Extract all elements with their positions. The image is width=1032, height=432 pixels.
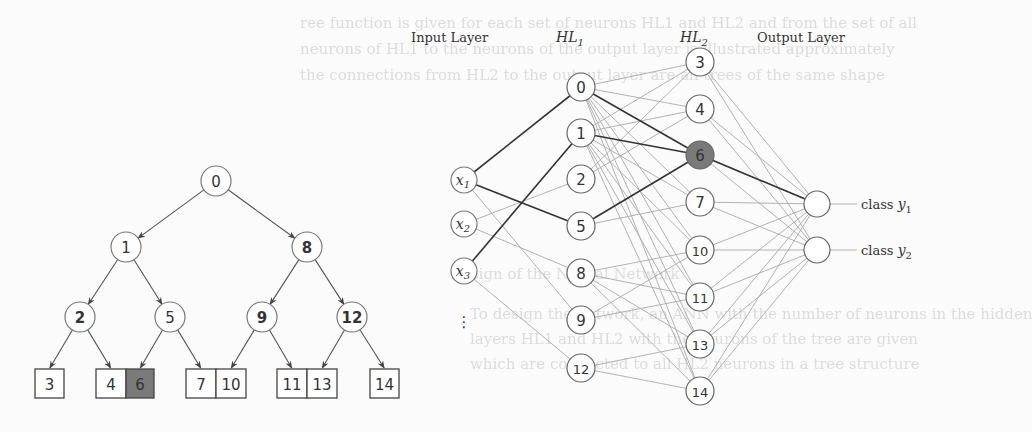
svg-text:14: 14: [375, 376, 394, 394]
svg-text:6: 6: [135, 376, 145, 394]
svg-text:0: 0: [576, 79, 586, 97]
connection: [581, 250, 700, 273]
svg-text:5: 5: [165, 309, 175, 327]
svg-text:8: 8: [302, 239, 312, 257]
tree-edge: [228, 190, 295, 238]
hl2-node-3: 3: [686, 48, 714, 76]
bold-connection: [700, 155, 817, 204]
svg-text:12: 12: [573, 362, 590, 377]
svg-text:8: 8: [576, 265, 586, 283]
tree-leaf-10: 10: [216, 369, 246, 398]
connection: [700, 204, 817, 297]
connection: [581, 368, 700, 391]
tree-edge: [88, 330, 111, 368]
svg-text:13: 13: [312, 376, 331, 394]
tree-node-1: 1: [111, 232, 141, 262]
svg-text:12: 12: [342, 309, 363, 327]
output-layer-label: Output Layer: [757, 30, 846, 45]
output-node-y2: class y2: [804, 237, 912, 263]
tree-edge: [138, 190, 204, 238]
hl1-node-12: 12: [567, 354, 595, 382]
tree-edge: [315, 260, 344, 305]
hl1-node-1: 1: [567, 119, 595, 147]
connection: [700, 62, 817, 204]
input-node-x2: x2: [451, 211, 477, 237]
hl1-label: HL1: [555, 29, 584, 48]
tree-leaf-11: 11: [277, 369, 307, 398]
tree-edge: [322, 330, 344, 368]
connection: [700, 250, 817, 391]
hl2-label: HL2: [679, 29, 708, 48]
svg-text:14: 14: [692, 385, 709, 400]
connection: [581, 297, 700, 320]
svg-text:4: 4: [695, 101, 705, 119]
hl2-node-13: 13: [686, 330, 714, 358]
svg-text:9: 9: [257, 309, 267, 327]
hl2-node-6: 6: [686, 141, 714, 169]
hl1-node-2: 2: [567, 165, 595, 193]
svg-text:1: 1: [121, 239, 131, 257]
tree-edge: [140, 330, 162, 368]
tree-leaf-14: 14: [370, 369, 399, 398]
tree-node-2: 2: [65, 302, 95, 332]
tree-edge: [88, 260, 118, 305]
connection: [464, 224, 581, 273]
connection: [700, 204, 817, 391]
connection: [581, 133, 700, 391]
svg-text:2: 2: [75, 309, 85, 327]
tree-node-5: 5: [155, 302, 185, 332]
svg-text:2: 2: [576, 171, 586, 189]
hl1-node-9: 9: [567, 306, 595, 334]
connection: [581, 62, 700, 87]
tree-leaf-13: 13: [307, 369, 337, 398]
input-layer-label: Input Layer: [411, 30, 489, 45]
connection: [700, 109, 817, 204]
tree-leaf-6: 6: [126, 369, 154, 398]
neural-network-diagram: x1x2x3⋮01258912346710111314class y1class…: [411, 29, 912, 405]
svg-text:10: 10: [692, 244, 709, 259]
svg-text:10: 10: [221, 376, 240, 394]
svg-text:6: 6: [695, 147, 705, 165]
input-node-x1: x1: [451, 167, 477, 193]
hl2-node-4: 4: [686, 95, 714, 123]
tree-leaf-4: 4: [96, 369, 126, 398]
svg-text:1: 1: [576, 125, 586, 143]
svg-text:3: 3: [695, 54, 705, 72]
connection: [581, 202, 700, 226]
hl2-node-11: 11: [686, 283, 714, 311]
hl1-node-0: 0: [567, 73, 595, 101]
svg-text:11: 11: [282, 376, 301, 394]
hl2-node-7: 7: [686, 188, 714, 216]
svg-text:13: 13: [692, 338, 709, 353]
hl2-node-14: 14: [686, 377, 714, 405]
tree-edge: [360, 330, 384, 368]
tree-node-8: 8: [292, 232, 322, 262]
hl1-node-8: 8: [567, 259, 595, 287]
hl2-node-10: 10: [686, 236, 714, 264]
connection: [581, 250, 700, 320]
hl1-node-5: 5: [567, 212, 595, 240]
tree-edge: [50, 330, 73, 368]
output-class-label: class y2: [861, 242, 912, 261]
tree-edge: [270, 260, 299, 305]
svg-text:9: 9: [576, 312, 586, 330]
tree-edge: [231, 330, 254, 368]
connection: [700, 204, 817, 344]
network-connections: [464, 62, 857, 391]
tree-leaf-3: 3: [35, 369, 64, 398]
tree-node-9: 9: [247, 302, 277, 332]
tree-node-0: 0: [201, 166, 231, 196]
svg-text:11: 11: [692, 291, 709, 306]
connection: [581, 344, 700, 368]
input-node-x3: x3: [451, 258, 477, 284]
binary-tree-diagram: 01825912346710111314: [35, 166, 399, 398]
svg-text:3: 3: [45, 376, 55, 394]
svg-text:0: 0: [211, 173, 221, 191]
bold-connection: [464, 87, 581, 180]
tree-edge: [269, 330, 291, 368]
svg-text:5: 5: [576, 218, 586, 236]
layer-labels: Input Layer HL1 HL2 Output Layer: [411, 29, 846, 48]
output-class-label: class y1: [861, 196, 912, 215]
svg-text:7: 7: [695, 194, 705, 212]
